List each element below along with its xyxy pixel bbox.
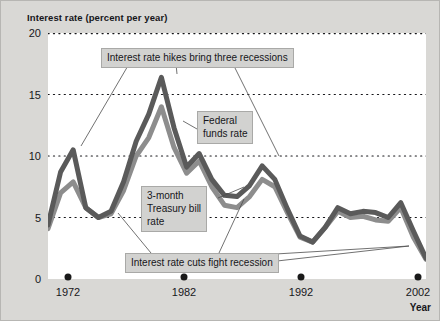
chart-svg xyxy=(48,33,426,279)
x-tick-label-1972: 1972 xyxy=(56,286,80,298)
annotation-treasury-bill-rate: 3-month Treasury bill rate xyxy=(141,186,207,232)
annotation-interest-rate-cuts: Interest rate cuts fight recession xyxy=(125,253,279,273)
x-tick-dot-1972 xyxy=(65,274,72,281)
y-tick-label-10: 10 xyxy=(1,150,41,162)
y-tick-label-15: 15 xyxy=(1,89,41,101)
y-tick-label-0: 0 xyxy=(1,273,41,285)
annotation-federal-line1: Federal xyxy=(203,115,237,126)
annotation-cuts-line1: Interest rate cuts fight recession xyxy=(131,257,273,268)
x-tick-label-1982: 1982 xyxy=(172,286,196,298)
annotation-tbill-line1: 3-month xyxy=(147,190,184,201)
annotation-federal-line2: funds rate xyxy=(203,127,247,140)
x-tick-label-1992: 1992 xyxy=(289,286,313,298)
series-line-federal-funds xyxy=(48,77,426,258)
y-tick-label-20: 20 xyxy=(1,27,41,39)
x-axis-label: Year xyxy=(410,302,431,313)
annotation-federal-funds-rate: Federal funds rate xyxy=(197,111,253,144)
annotation-tbill-line2: Treasury bill xyxy=(147,202,201,215)
annotation-hikes-line1: Interest rate hikes bring three recessio… xyxy=(107,52,288,63)
annotation-tbill-line3: rate xyxy=(147,215,201,228)
interest-rate-chart-figure: Interest rate (percent per year) 20 15 1… xyxy=(0,0,440,321)
x-tick-label-2002: 2002 xyxy=(406,286,430,298)
x-tick-dot-2002 xyxy=(415,274,422,281)
x-tick-dot-1982 xyxy=(181,274,188,281)
plot-area xyxy=(48,33,426,279)
annotation-interest-rate-hikes: Interest rate hikes bring three recessio… xyxy=(101,48,294,68)
x-tick-dot-1992 xyxy=(298,274,305,281)
chart-title: Interest rate (percent per year) xyxy=(27,12,167,23)
y-tick-label-5: 5 xyxy=(1,212,41,224)
